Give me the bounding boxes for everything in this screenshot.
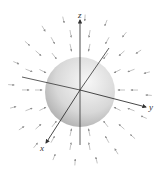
field-arrow xyxy=(70,143,71,150)
field-arrow xyxy=(128,108,135,111)
field-arrow xyxy=(19,127,24,130)
field-arrow xyxy=(36,124,41,129)
field-arrow xyxy=(89,30,90,37)
field-arrow xyxy=(128,69,135,72)
field-arrow xyxy=(36,51,41,56)
field-arrow xyxy=(42,26,45,31)
field-arrow xyxy=(10,107,16,109)
field-arrow xyxy=(123,32,127,37)
field-arrow xyxy=(106,37,110,43)
y-axis-label: y xyxy=(148,102,153,112)
field-arrow xyxy=(25,108,32,111)
field-arrow xyxy=(119,51,124,56)
field-arrow xyxy=(115,149,118,154)
field-arrow xyxy=(52,53,56,59)
field-arrow xyxy=(13,62,19,64)
field-arrow xyxy=(130,135,135,139)
z-axis-label: z xyxy=(77,10,82,20)
field-arrow xyxy=(144,72,150,74)
field-arrow xyxy=(51,136,55,142)
field-arrow xyxy=(89,143,90,150)
field-arrow xyxy=(70,30,71,37)
field-arrow xyxy=(70,44,72,51)
field-arrow xyxy=(119,124,124,129)
field-arrow xyxy=(88,129,90,136)
field-arrow xyxy=(26,69,33,72)
field-arrow xyxy=(53,154,55,160)
field-arrow xyxy=(114,69,120,72)
field-arrow xyxy=(70,129,72,136)
x-axis-label: x xyxy=(39,143,44,153)
field-arrow xyxy=(104,121,108,127)
field-arrow xyxy=(34,143,38,148)
field-arrow xyxy=(39,69,45,72)
field-arrow xyxy=(141,116,147,118)
field-arrow xyxy=(96,157,97,163)
field-arrow xyxy=(105,20,107,26)
field-arrow xyxy=(39,107,45,110)
field-arrow xyxy=(25,41,30,45)
field-arrow xyxy=(105,136,108,142)
field-arrow xyxy=(63,17,64,23)
vector-field-diagram: zyx xyxy=(0,0,162,181)
field-arrow xyxy=(104,53,108,59)
field-arrow xyxy=(51,37,54,43)
field-arrow xyxy=(136,50,141,53)
field-arrow xyxy=(114,107,120,110)
field-arrow xyxy=(88,44,90,51)
field-arrow xyxy=(52,121,56,127)
